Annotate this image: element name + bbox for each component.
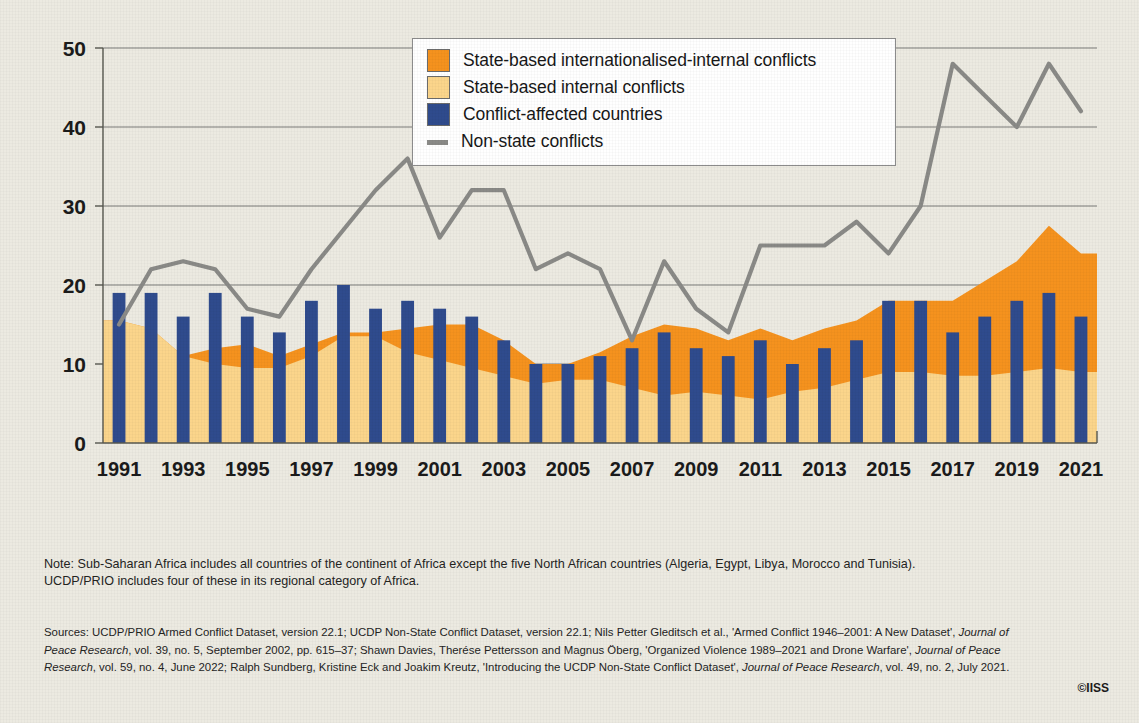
chart-page: 01020304050 1991199319951997199920012003… [0,0,1139,723]
x-tick-2015: 2015 [866,458,911,480]
legend-label-countries: Conflict-affected countries [463,104,662,125]
sources-line-1: Sources: UCDP/PRIO Armed Conflict Datase… [44,624,1106,642]
x-tick-2019: 2019 [995,458,1040,480]
legend-item-nonstate: Non-state conflicts [427,128,883,155]
bar-1998 [337,285,350,443]
legend-swatch-internationalised [427,49,450,72]
bar-2019 [1010,301,1023,443]
bar-2014 [850,340,863,443]
x-tick-2017: 2017 [930,458,975,480]
bar-2012 [786,364,799,443]
bar-2016 [914,301,927,443]
x-tick-1993: 1993 [161,458,206,480]
sources-seg-1c: Journal of [959,626,1009,638]
bar-2002 [465,317,478,443]
x-tick-1999: 1999 [353,458,398,480]
x-tick-2007: 2007 [610,458,655,480]
x-axis-tick-labels: 1991199319951997199920012003200520072009… [97,458,1103,480]
bar-1997 [305,301,318,443]
bar-1999 [369,309,382,443]
x-tick-2001: 2001 [417,458,462,480]
bar-2011 [754,340,767,443]
y-axis-tick-labels: 01020304050 [63,37,86,455]
x-tick-2005: 2005 [546,458,591,480]
bar-2021 [1075,317,1088,443]
legend-item-countries: Conflict-affected countries [427,101,883,128]
y-tick-40: 40 [63,116,86,139]
bar-1993 [177,317,190,443]
sources-line-3: Research, vol. 59, no. 4, June 2022; Ral… [44,659,1106,677]
legend-swatch-nonstate-line [427,131,448,152]
y-tick-10: 10 [63,353,86,376]
note-line-1: Note: Sub-Saharan Africa includes all co… [44,556,1104,573]
sources-line-2: Peace Research, vol. 39, no. 5, Septembe… [44,642,1106,660]
y-tick-20: 20 [63,274,86,297]
sources-seg-3c: Journal of Peace Research [742,661,879,673]
legend-swatch-countries [427,103,450,126]
y-tick-0: 0 [74,432,86,455]
bar-2005 [562,364,575,443]
bar-1996 [273,332,286,443]
bar-2010 [722,356,735,443]
note-line-2: UCDP/PRIO includes four of these in its … [44,573,1104,590]
bar-2018 [978,317,991,443]
copyright-notice: ©IISS [1077,681,1109,695]
sources-seg-3a: Research [44,661,93,673]
legend-label-internationalised: State-based internationalised-internal c… [463,50,816,71]
bar-1995 [241,317,254,443]
bar-2003 [497,340,510,443]
sources-seg-1a: Sources: UCDP/PRIO Armed Conflict Datase… [44,626,732,638]
bar-2007 [626,348,639,443]
legend-label-internal: State-based internal conflicts [463,77,685,98]
x-tick-2003: 2003 [482,458,527,480]
bar-2017 [946,332,959,443]
x-tick-1995: 1995 [225,458,270,480]
bar-2008 [658,332,671,443]
chart-sources: Sources: UCDP/PRIO Armed Conflict Datase… [44,624,1106,677]
sources-seg-3b: , vol. 59, no. 4, June 2022; Ralph Sundb… [93,661,742,673]
legend-item-internationalised: State-based internationalised-internal c… [427,47,883,74]
bar-2013 [818,348,831,443]
sources-seg-2c: Journal of Peace [915,644,1001,656]
bar-1994 [209,293,222,443]
sources-seg-3d: , vol. 49, no. 2, July 2021. [879,661,1009,673]
x-tick-2011: 2011 [739,458,782,480]
y-tick-30: 30 [63,195,86,218]
bar-2015 [882,301,895,443]
sources-seg-2a: Peace Research [44,644,128,656]
x-tick-2013: 2013 [802,458,847,480]
bar-2009 [690,348,703,443]
x-tick-1997: 1997 [289,458,334,480]
x-tick-2021: 2021 [1059,458,1104,480]
bar-2001 [433,309,446,443]
bar-1992 [145,293,158,443]
legend-label-nonstate: Non-state conflicts [461,131,603,152]
chart-legend: State-based internationalised-internal c… [412,38,896,166]
sources-seg-2b: , vol. 39, no. 5, September 2002, pp. 61… [128,644,915,656]
bar-2000 [401,301,414,443]
bar-2006 [594,356,607,443]
bar-2004 [529,364,542,443]
legend-swatch-internal [427,76,450,99]
x-tick-2009: 2009 [674,458,719,480]
legend-item-internal: State-based internal conflicts [427,74,883,101]
sources-seg-1b: 'Armed Conflict 1946–2001: A New Dataset… [732,626,959,638]
chart-note: Note: Sub-Saharan Africa includes all co… [44,556,1104,590]
y-tick-50: 50 [63,37,86,60]
bar-2020 [1042,293,1055,443]
x-tick-1991: 1991 [97,458,142,480]
